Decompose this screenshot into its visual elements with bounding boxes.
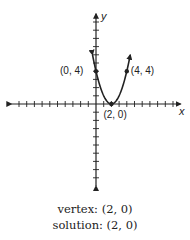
axes: xy — [11, 10, 185, 186]
vertex-caption: vertex: (2, 0) — [0, 202, 190, 216]
y-axis-label: y — [100, 10, 108, 22]
parabola-graph: xy (0, 4)(2, 0)(4, 4) — [0, 0, 190, 200]
x-axis-label: x — [178, 105, 185, 117]
point-marker — [125, 69, 129, 73]
point-marker — [94, 69, 98, 73]
point-label: (0, 4) — [60, 65, 83, 76]
point-label: (2, 0) — [103, 109, 126, 120]
point-label: (4, 4) — [131, 65, 154, 76]
parabola-path — [93, 55, 131, 104]
labeled-points: (0, 4)(2, 0)(4, 4) — [60, 65, 154, 120]
solution-caption: solution: (2, 0) — [0, 218, 190, 232]
parabola-curve — [93, 55, 131, 104]
point-marker — [109, 102, 113, 106]
